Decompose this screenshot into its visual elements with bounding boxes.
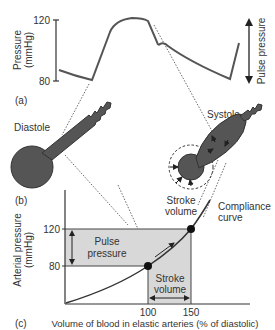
panel-a: 120 80 Pressure (mmHg) Pulse pressure (a… [12, 15, 267, 106]
panel-c-label: (c) [15, 318, 27, 329]
pressure-axis [53, 20, 59, 81]
pressure-waveform [59, 18, 239, 80]
stroke-label-c-2: volume [154, 284, 187, 295]
pulse-pressure-arrow [245, 18, 253, 84]
compliance-label-1: Compliance [218, 201, 271, 212]
diastole-label: Diastole [14, 122, 51, 133]
svg-text:(mmHg): (mmHg) [23, 232, 34, 268]
tick-120: 120 [33, 15, 50, 26]
panel-b: Diastole Systole Stroke volume (b) [11, 102, 262, 217]
pulse-label-1: Pulse [94, 236, 119, 247]
stroke-volume-label-b-1: Stroke [167, 195, 196, 206]
c-tick-80: 80 [49, 261, 61, 272]
pressure-axis-label: Pressure (mmHg) [12, 30, 34, 70]
stroke-label-c-1: Stroke [156, 273, 185, 284]
svg-text:Pressure: Pressure [12, 30, 23, 70]
svg-text:Arterial pressure: Arterial pressure [12, 213, 23, 287]
x-axis-label: Volume of blood in elastic arteries (% o… [52, 318, 259, 329]
panel-c: 120 80 Arterial pressure (mmHg) Pulse pr… [12, 190, 271, 329]
pulse-label-2: pressure [88, 248, 127, 259]
compliance-label-2: curve [218, 212, 243, 223]
systolic-point [187, 225, 195, 233]
pulse-pressure-label: Pulse pressure [256, 17, 267, 84]
diastole-vessel [11, 102, 111, 188]
stroke-volume-label-b-2: volume [165, 206, 198, 217]
arterial-compliance-diagram: 120 80 Pressure (mmHg) Pulse pressure (a… [0, 0, 275, 330]
diastolic-point [144, 262, 152, 270]
panel-a-label: (a) [15, 95, 27, 106]
c-tick-120: 120 [43, 224, 60, 235]
x-tick-100: 100 [140, 307, 157, 318]
panel-b-label: (b) [15, 195, 27, 206]
x-tick-150: 150 [183, 307, 200, 318]
connector-lines [62, 25, 226, 262]
arterial-pressure-axis-label: Arterial pressure (mmHg) [12, 213, 34, 287]
svg-text:(mmHg): (mmHg) [23, 32, 34, 68]
tick-80: 80 [39, 76, 51, 87]
